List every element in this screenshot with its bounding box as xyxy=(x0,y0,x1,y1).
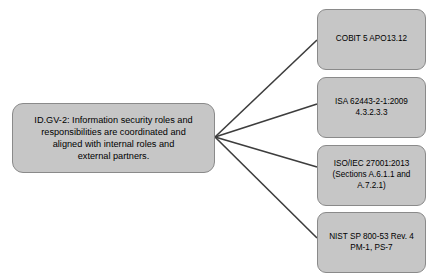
node-isa[interactable]: ISA 62443-2-1:2009 4.3.2.3.3 xyxy=(317,77,426,138)
node-iso-iec[interactable]: ISO/IEC 27001:2013 (Sections A.6.1.1 and… xyxy=(317,145,426,206)
node-cobit[interactable]: COBIT 5 APO13.12 xyxy=(317,9,426,70)
node-iso-iec-label: ISO/IEC 27001:2013 (Sections A.6.1.1 and… xyxy=(328,159,416,191)
node-cobit-label: COBIT 5 APO13.12 xyxy=(331,34,412,45)
node-nist-sp-label: NIST SP 800-53 Rev. 4 PM-1, PS-7 xyxy=(324,232,419,254)
node-id-gv-2-label: ID.GV-2: Information security roles and … xyxy=(27,114,199,163)
node-nist-sp[interactable]: NIST SP 800-53 Rev. 4 PM-1, PS-7 xyxy=(317,212,426,273)
node-isa-label: ISA 62443-2-1:2009 4.3.2.3.3 xyxy=(330,97,413,119)
connector-line-cobit xyxy=(215,40,317,137)
diagram-canvas: ID.GV-2: Information security roles and … xyxy=(0,0,438,279)
node-id-gv-2[interactable]: ID.GV-2: Information security roles and … xyxy=(12,103,215,173)
connector-line-isa xyxy=(215,104,317,137)
